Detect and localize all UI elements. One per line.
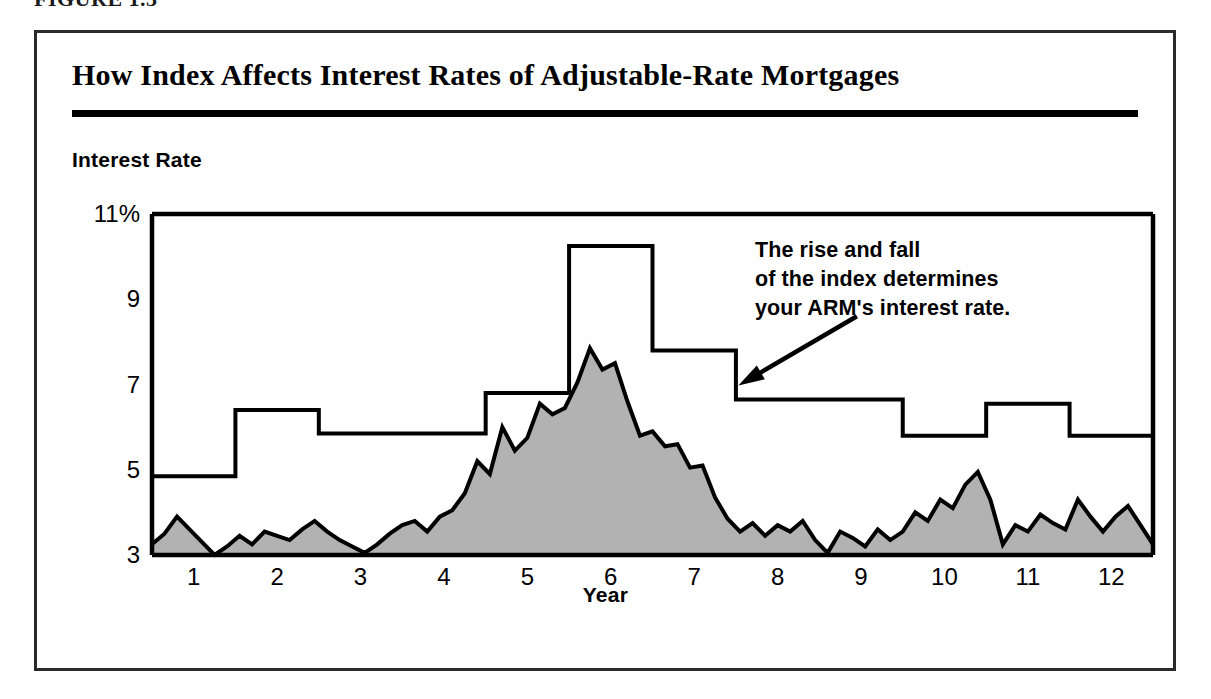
x-tick-label: 4 <box>414 565 474 589</box>
y-axis-title: Interest Rate <box>72 148 202 172</box>
y-tick-label: 5 <box>60 458 140 482</box>
annotation-line-2: of the index determines <box>755 265 1010 294</box>
x-tick-label: 7 <box>664 565 724 589</box>
annotation-line-3: your ARM's interest rate. <box>755 294 1010 323</box>
x-tick-label: 2 <box>247 565 307 589</box>
y-tick-label: 3 <box>60 543 140 567</box>
x-tick-label: 11 <box>998 565 1058 589</box>
x-tick-label: 9 <box>831 565 891 589</box>
annotation-line-1: The rise and fall <box>755 236 1010 265</box>
x-tick-label: 12 <box>1081 565 1141 589</box>
x-tick-label: 3 <box>331 565 391 589</box>
y-tick-label: 9 <box>60 287 140 311</box>
x-tick-label: 1 <box>164 565 224 589</box>
figure-caption: FIGURE 1.3 <box>34 0 158 12</box>
x-tick-label: 8 <box>748 565 808 589</box>
title-underline-rule <box>72 110 1138 117</box>
x-tick-label: 5 <box>497 565 557 589</box>
annotation-callout: The rise and fall of the index determine… <box>755 236 1010 323</box>
y-tick-label: 7 <box>60 373 140 397</box>
chart-title: How Index Affects Interest Rates of Adju… <box>72 58 899 92</box>
x-tick-label: 10 <box>914 565 974 589</box>
y-tick-label: 11% <box>60 202 140 226</box>
x-tick-label: 6 <box>581 565 641 589</box>
